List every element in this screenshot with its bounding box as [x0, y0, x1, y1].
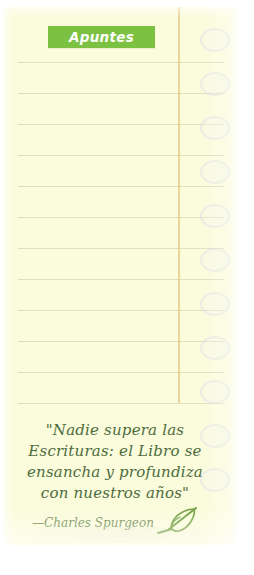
rule-line [18, 93, 224, 94]
rule-line [18, 155, 224, 156]
quote-line: ensancha y profundiza [10, 462, 220, 483]
rule-line [18, 341, 224, 342]
section-tag-label: Apuntes [69, 29, 134, 45]
paper-sheet: Apuntes "Nadie supera las Escrituras: el… [4, 7, 238, 545]
margin-line [178, 7, 180, 403]
rule-line [18, 403, 224, 404]
rule-line [18, 124, 224, 125]
rule-line [18, 186, 224, 187]
quote-line: con nuestros años" [10, 483, 220, 504]
section-tag-apuntes[interactable]: Apuntes [48, 26, 155, 48]
quote-block: "Nadie supera las Escrituras: el Libro s… [10, 420, 220, 540]
rule-line [18, 310, 224, 311]
rule-line [18, 248, 224, 249]
quote-attribution-row: —Charles Spurgeon [10, 506, 220, 540]
quote-attribution: —Charles Spurgeon [32, 516, 154, 530]
rule-line [18, 217, 224, 218]
notepad-page: Apuntes "Nadie supera las Escrituras: el… [0, 0, 254, 575]
rule-line [18, 372, 224, 373]
rule-line [18, 62, 224, 63]
quote-line: Escrituras: el Libro se [10, 441, 220, 462]
quote-line: "Nadie supera las [10, 420, 220, 441]
quill-pen-icon [156, 506, 198, 540]
rule-line [18, 279, 224, 280]
